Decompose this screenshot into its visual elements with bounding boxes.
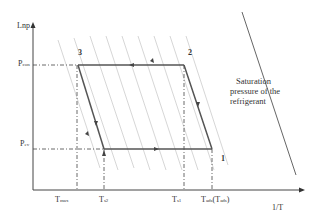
x-axis-label: 1/T [272, 204, 283, 212]
arrow-left-icon [129, 63, 134, 67]
heat-marker-top-icon [150, 58, 154, 63]
point-2-label: 2 [188, 49, 192, 57]
point-3-label: 3 [78, 49, 82, 57]
point-1-label: 1 [221, 155, 225, 163]
t-s2-label: Ts2 [99, 196, 108, 204]
arrow-up-icon [102, 150, 106, 156]
x-axis-arrow-icon [299, 188, 305, 193]
y-axis-arrow-icon [31, 22, 36, 28]
arrow-right-icon [154, 147, 159, 151]
isostere-lines [58, 36, 228, 170]
axes [33, 27, 300, 190]
saturation-annotation: Saturation pressure of the refrigerant [230, 76, 310, 106]
p-con-label: Pcon [18, 60, 30, 68]
t-max-label: Tmax [55, 196, 69, 204]
guide-lines [33, 65, 212, 190]
clapeyron-diagram [0, 0, 318, 218]
p-ev-label: Pev [20, 140, 29, 148]
t-s1-label: Ts1 [172, 196, 181, 204]
t-ads-label: Tads(Tads) [201, 196, 229, 204]
y-axis-label: Lnp [17, 22, 30, 30]
